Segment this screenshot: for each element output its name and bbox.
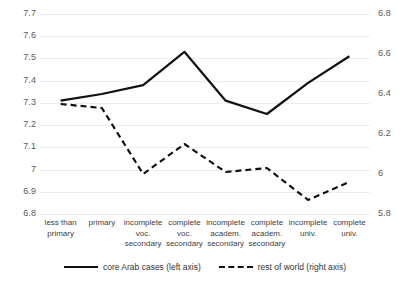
left-axis-tick-label: 7.4 <box>6 76 36 85</box>
x-axis-category-label: complete academ. secondary <box>246 218 287 258</box>
x-axis-category-label: incomplete univ. <box>288 218 329 258</box>
x-axis-category-label: complete univ. <box>329 218 370 258</box>
x-axis-category-label: primary <box>81 218 122 258</box>
left-axis-tick-label: 6.9 <box>6 187 36 196</box>
right-axis-tick-label: 6.2 <box>378 129 408 138</box>
right-axis-tick-label: 6.4 <box>378 89 408 98</box>
series-line <box>61 52 350 114</box>
x-axis-category-label: incomplete academ. secondary <box>205 218 246 258</box>
right-axis-tick-label: 5.8 <box>378 209 408 218</box>
left-axis-tick-label: 7.6 <box>6 31 36 40</box>
series-line <box>61 104 350 200</box>
legend-label: rest of world (right axis) <box>258 262 346 272</box>
chart-legend: core Arab cases (left axis)rest of world… <box>0 262 410 272</box>
left-axis-tick-label: 7.3 <box>6 98 36 107</box>
left-axis-tick-label: 7.7 <box>6 9 36 18</box>
left-axis-tick-label: 6.8 <box>6 209 36 218</box>
right-axis-tick-label: 6.6 <box>378 49 408 58</box>
legend-item: core Arab cases (left axis) <box>64 262 201 272</box>
line-chart: 6.86.977.17.27.37.47.57.67.7 5.866.26.46… <box>0 0 410 287</box>
x-axis-category-label: incomplete voc. secondary <box>123 218 164 258</box>
x-axis-category-label: less than primary <box>40 218 81 258</box>
x-axis-category-labels: less than primaryprimaryincomplete voc. … <box>40 218 370 258</box>
solid-line-icon <box>64 266 98 268</box>
left-axis-tick-label: 7.2 <box>6 120 36 129</box>
legend-label: core Arab cases (left axis) <box>103 262 201 272</box>
left-axis-tick-label: 7.5 <box>6 53 36 62</box>
right-axis-tick-label: 6 <box>378 169 408 178</box>
left-axis-tick-label: 7 <box>6 165 36 174</box>
plot-area <box>40 14 370 214</box>
left-axis-tick-label: 7.1 <box>6 142 36 151</box>
x-axis-category-label: complete voc. secondary <box>164 218 205 258</box>
right-axis-tick-label: 6.8 <box>378 9 408 18</box>
legend-item: rest of world (right axis) <box>219 262 346 272</box>
gridline <box>40 214 370 215</box>
dashed-line-icon <box>219 266 253 268</box>
series-lines <box>40 14 370 214</box>
